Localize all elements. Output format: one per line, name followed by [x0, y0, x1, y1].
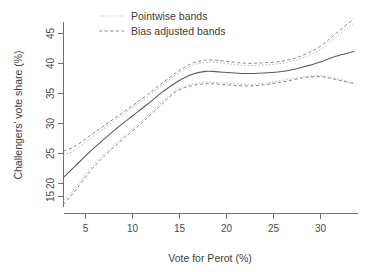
y-tick-label-20: 20	[45, 178, 56, 190]
x-tick-label-10: 10	[127, 223, 139, 234]
y-tick-label-45: 45	[45, 28, 56, 40]
series-pointwise-band-upper	[64, 23, 355, 155]
x-tick-label-20: 20	[221, 223, 233, 234]
y-tick-label-25: 25	[45, 148, 56, 160]
x-tick-label-15: 15	[174, 223, 186, 234]
chart-figure: 45 40 35 30 25 20 15 5 10 15 20 25 30 V	[0, 0, 365, 272]
chart-series-group	[64, 19, 355, 205]
y-axis-tick-labels: 45 40 35 30 25 20 15	[45, 28, 56, 203]
y-tick-label-15: 15	[45, 191, 56, 203]
y-tick-label-30: 30	[45, 118, 56, 130]
legend-label-bias: Bias adjusted bands	[131, 25, 226, 37]
y-axis-ticks	[58, 34, 64, 197]
series-bias-band-upper	[64, 19, 355, 151]
y-tick-label-35: 35	[45, 88, 56, 100]
series-pointwise-band-lower	[64, 76, 355, 201]
x-tick-label-5: 5	[83, 223, 89, 234]
y-tick-label-40: 40	[45, 58, 56, 70]
series-bias-band-lower	[64, 77, 355, 205]
x-axis-tick-labels: 5 10 15 20 25 30	[83, 223, 327, 234]
x-tick-label-30: 30	[315, 223, 327, 234]
x-tick-label-25: 25	[268, 223, 280, 234]
x-axis-title: Vote for Perot (%)	[168, 252, 251, 264]
line-chart-svg: 45 40 35 30 25 20 15 5 10 15 20 25 30 V	[0, 0, 365, 272]
y-axis-title: Challengers' vote share (%)	[12, 50, 24, 179]
x-axis-ticks	[86, 214, 321, 220]
chart-legend: Pointwise bands Bias adjusted bands	[99, 10, 226, 37]
series-fitted-curve	[64, 52, 355, 178]
legend-label-pointwise: Pointwise bands	[131, 10, 207, 22]
